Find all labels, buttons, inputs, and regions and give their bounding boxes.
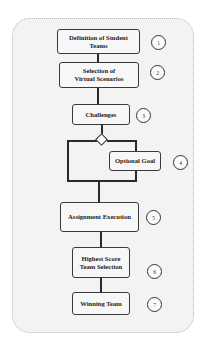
step-number-4: 4: [173, 155, 188, 170]
step-number-7: 7: [147, 297, 162, 312]
connector-loop-5: [98, 181, 100, 202]
connector-5-6: [100, 232, 102, 247]
step-box-1: Definition of Student Teams: [57, 29, 140, 54]
connector-6-7: [100, 278, 102, 292]
step-number-3: 3: [136, 108, 151, 123]
loop-top-left: [67, 140, 97, 142]
step-number-5: 5: [146, 210, 161, 225]
step-number-2: 2: [150, 65, 165, 80]
step-box-6: Highest Score Team Selection: [72, 247, 130, 278]
step-number-1: 1: [151, 35, 166, 50]
step-box-4: Optional Goal: [109, 151, 161, 171]
step-box-2: Selection of Virtual Scenarios: [59, 62, 139, 88]
step-box-3: Challenges: [72, 104, 130, 125]
connector-2-3: [97, 88, 99, 104]
loop-bottom: [67, 180, 137, 182]
connector-1-2: [97, 54, 99, 62]
loop-left: [67, 140, 69, 181]
step-box-7: Winning Team: [72, 292, 130, 315]
loop-top-right: [107, 140, 137, 142]
step-number-6: 6: [147, 264, 162, 279]
step-box-5: Assignment Execution: [60, 202, 139, 232]
